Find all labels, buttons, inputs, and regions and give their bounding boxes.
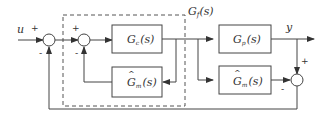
branch-to-gm-outer bbox=[198, 39, 213, 80]
s1-minus-sign: - bbox=[39, 48, 42, 58]
s3-minus-sign: - bbox=[281, 84, 284, 94]
block-gc-label: Gc(s) bbox=[127, 33, 154, 46]
s3-plus-sign: + bbox=[301, 56, 309, 66]
summing-junction-2 bbox=[78, 34, 90, 46]
summing-junction-3 bbox=[291, 74, 303, 86]
input-label-u: u bbox=[17, 23, 24, 36]
inner-feedback-to-gm bbox=[163, 39, 176, 82]
gm-inner-to-s2 bbox=[84, 47, 112, 82]
s2-minus-sign: - bbox=[75, 48, 78, 58]
gf-group-label: GGf(s)f(s) bbox=[188, 5, 214, 19]
s2-plus-sign: + bbox=[72, 23, 80, 33]
block-gp-label: Gp(s) bbox=[233, 33, 261, 47]
block-gm-inner-label: Gm(s) bbox=[127, 76, 157, 89]
output-label-y: y bbox=[285, 21, 293, 34]
block-gm-outer bbox=[219, 66, 271, 94]
block-gm-outer-label: Gm(s) bbox=[233, 75, 263, 88]
imc-block-diagram: GGf(s)f(s) u + - + - Gc(s) ^ Gm(s) Gp(s)… bbox=[0, 0, 335, 116]
s1-plus-sign: + bbox=[31, 23, 39, 33]
summing-junction-1 bbox=[43, 34, 55, 46]
